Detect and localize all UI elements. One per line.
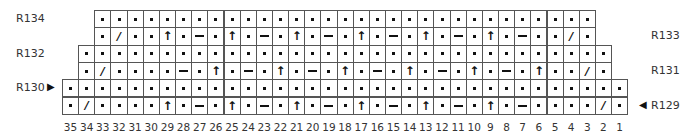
purl-dot-icon — [118, 18, 121, 21]
stitch-cell — [369, 27, 386, 45]
stitch-cell — [159, 45, 176, 63]
stitch-cell — [143, 27, 160, 45]
purl-dot-icon — [311, 104, 314, 107]
stitch-cell — [127, 27, 144, 45]
stitch-cell — [498, 79, 515, 97]
stitch-cell — [563, 79, 580, 97]
purl-dot-icon — [376, 35, 379, 38]
stitch-cell: ↑ — [353, 27, 370, 45]
stitch-cell — [417, 10, 434, 28]
purl-dot-icon — [521, 52, 524, 55]
purl-dot-icon — [618, 87, 621, 90]
purl-dot-icon — [85, 52, 88, 55]
stitch-cell — [433, 79, 450, 97]
column-number: 24 — [240, 121, 257, 133]
stitch-cell — [547, 97, 564, 115]
column-number: 21 — [288, 121, 305, 133]
stitch-cell — [417, 79, 434, 97]
stitch-cell — [127, 10, 144, 28]
purl-dot-icon — [198, 70, 201, 73]
purl-dot-icon — [360, 18, 363, 21]
purl-dot-icon — [166, 18, 169, 21]
stitch-cell — [595, 45, 612, 63]
stitch-cell — [547, 27, 564, 45]
purl-dot-icon — [263, 87, 266, 90]
stitch-cell — [78, 45, 95, 63]
purl-dot-icon — [408, 52, 411, 55]
purl-dot-icon — [570, 18, 573, 21]
stitch-cell — [466, 10, 483, 28]
purl-dot-icon — [586, 35, 589, 38]
purl-dot-icon — [586, 52, 589, 55]
stitch-cell — [450, 45, 467, 63]
stitch-cell — [385, 10, 402, 28]
stitch-cell: / — [78, 97, 95, 115]
purl-dot-icon — [134, 18, 137, 21]
stitch-cell: ↑ — [207, 62, 224, 80]
stitch-cell — [514, 10, 531, 28]
stitch-cell — [272, 10, 289, 28]
stitch-cell — [385, 97, 402, 115]
stitch-cell — [579, 10, 596, 28]
stitch-cell — [401, 97, 418, 115]
purl-dot-icon — [101, 18, 104, 21]
stitch-cell — [353, 79, 370, 97]
stitch-cell — [175, 97, 192, 115]
purl-dot-icon — [166, 52, 169, 55]
stitch-cell — [240, 97, 257, 115]
stitch-cell — [563, 62, 580, 80]
stitch-cell — [385, 45, 402, 63]
purl-dot-icon — [392, 70, 395, 73]
stitch-cell — [369, 10, 386, 28]
purl-dot-icon — [489, 52, 492, 55]
dash-icon — [179, 70, 188, 72]
up-arrow-icon: ↑ — [421, 30, 431, 42]
stitch-cell — [547, 79, 564, 97]
stitch-cell — [191, 45, 208, 63]
purl-dot-icon — [376, 52, 379, 55]
purl-dot-icon — [295, 18, 298, 21]
stitch-cell: / — [94, 62, 111, 80]
stitch-cell — [450, 27, 467, 45]
purl-dot-icon — [570, 70, 573, 73]
stitch-cell — [143, 79, 160, 97]
stitch-cell — [175, 62, 192, 80]
purl-dot-icon — [69, 87, 72, 90]
column-number: 30 — [143, 121, 160, 133]
purl-dot-icon — [344, 87, 347, 90]
stitch-cell — [337, 27, 354, 45]
dash-icon — [324, 105, 333, 107]
up-arrow-icon: ↑ — [356, 30, 366, 42]
purl-dot-icon — [214, 104, 217, 107]
up-arrow-icon: ↑ — [534, 65, 544, 77]
stitch-cell — [143, 10, 160, 28]
purl-dot-icon — [214, 18, 217, 21]
purl-dot-icon — [166, 70, 169, 73]
stitch-cell — [579, 27, 596, 45]
stitch-cell — [320, 79, 337, 97]
stitch-cell — [240, 27, 257, 45]
stitch-cell — [450, 97, 467, 115]
purl-dot-icon — [457, 52, 460, 55]
stitch-cell — [450, 10, 467, 28]
up-arrow-icon: ↑ — [405, 65, 415, 77]
stitch-cell: ↑ — [482, 27, 499, 45]
slash-icon: / — [85, 100, 89, 111]
stitch-cell — [595, 79, 612, 97]
stitch-cell — [175, 45, 192, 63]
purl-dot-icon — [134, 104, 137, 107]
column-number: 22 — [272, 121, 289, 133]
dash-icon — [324, 35, 333, 37]
purl-dot-icon — [521, 70, 524, 73]
row-label: R134 — [16, 12, 45, 25]
purl-dot-icon — [344, 18, 347, 21]
stitch-cell — [62, 79, 79, 97]
slash-icon: / — [101, 66, 105, 77]
up-arrow-icon: ↑ — [227, 100, 237, 112]
purl-dot-icon — [554, 18, 557, 21]
stitch-cell: / — [110, 27, 127, 45]
stitch-cell — [224, 79, 241, 97]
dash-icon — [389, 35, 398, 37]
stitch-cell — [401, 10, 418, 28]
stitch-cell — [466, 45, 483, 63]
